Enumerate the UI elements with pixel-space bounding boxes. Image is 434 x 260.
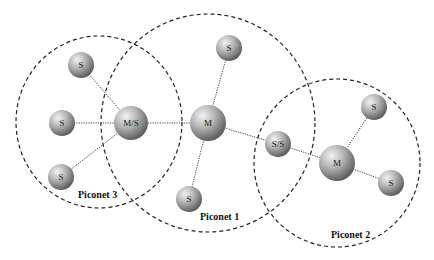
node-s3: S xyxy=(48,164,74,190)
node-s6: S xyxy=(361,94,387,120)
scatternet-diagram: SSSM/SMSSS/SMSS Piconet 3Piconet 1Picone… xyxy=(0,0,434,260)
node-label: S/S xyxy=(272,139,285,149)
piconet-label: Piconet 3 xyxy=(78,189,117,200)
node-label: S xyxy=(59,118,64,128)
node-s7: S xyxy=(378,170,404,196)
piconet-labels: Piconet 3Piconet 1Piconet 2 xyxy=(78,189,370,240)
node-m2: M xyxy=(319,145,355,181)
node-label: M xyxy=(333,158,341,168)
node-label: S xyxy=(78,60,83,70)
node-s2: S xyxy=(49,110,75,136)
node-label: S xyxy=(186,194,191,204)
node-label: S xyxy=(226,43,231,53)
node-m1: M xyxy=(190,105,226,141)
node-label: S xyxy=(58,172,63,182)
node-ms: M/S xyxy=(114,106,148,140)
node-label: S xyxy=(388,178,393,188)
node-label: M/S xyxy=(123,118,139,128)
node-s4: S xyxy=(216,35,242,61)
node-s1: S xyxy=(68,52,94,78)
node-s5: S xyxy=(176,186,202,212)
piconet-label: Piconet 1 xyxy=(200,211,239,222)
node-label: M xyxy=(204,118,212,128)
node-ss: S/S xyxy=(265,131,291,157)
node-label: S xyxy=(371,102,376,112)
piconet-ring-p3 xyxy=(16,36,182,208)
piconet-label: Piconet 2 xyxy=(331,229,370,240)
